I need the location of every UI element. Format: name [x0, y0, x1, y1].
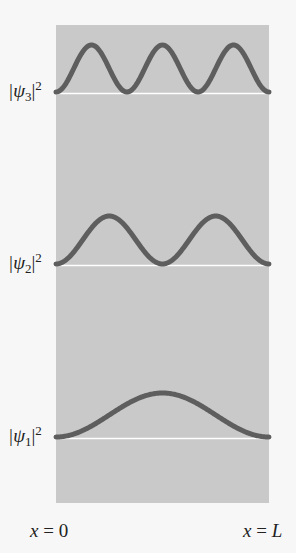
- probability-density-plot: [0, 0, 296, 553]
- psi1-curve: [56, 393, 269, 437]
- x-axis-label-right: x = L: [243, 520, 282, 542]
- label-psi2-squared: |ψ2|2: [8, 251, 42, 275]
- label-psi3-squared: |ψ3|2: [8, 79, 42, 103]
- psi3-curve: [56, 45, 269, 92]
- psi2-curve: [56, 216, 269, 264]
- x-axis-label-left: x = 0: [30, 520, 68, 542]
- label-psi1-squared: |ψ1|2: [8, 424, 42, 448]
